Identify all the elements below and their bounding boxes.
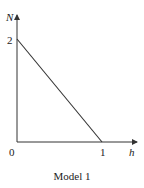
x-tick-1: 1 bbox=[100, 146, 106, 158]
x-axis-label: h bbox=[129, 146, 135, 158]
y-tick-2: 2 bbox=[7, 34, 13, 46]
chart-caption: Model 1 bbox=[54, 170, 91, 182]
data-line bbox=[17, 39, 102, 142]
origin-label: 0 bbox=[9, 146, 15, 158]
y-axis-label: N bbox=[5, 11, 14, 23]
chart: N 2 0 1 h Model 1 bbox=[0, 0, 144, 188]
